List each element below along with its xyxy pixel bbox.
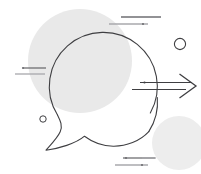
- accent-dot: [141, 164, 143, 166]
- arrow-accent-dot: [143, 81, 145, 83]
- speech-bubble-illustration: [0, 0, 201, 174]
- accent-dot: [125, 157, 127, 159]
- accent-dot: [142, 23, 144, 25]
- accent-dot: [22, 67, 24, 69]
- illustration-canvas: [0, 0, 201, 174]
